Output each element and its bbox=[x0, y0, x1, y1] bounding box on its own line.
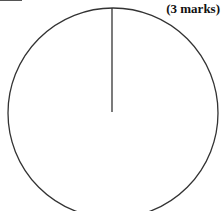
circle-figure bbox=[0, 0, 222, 211]
circle-outline bbox=[8, 8, 218, 211]
